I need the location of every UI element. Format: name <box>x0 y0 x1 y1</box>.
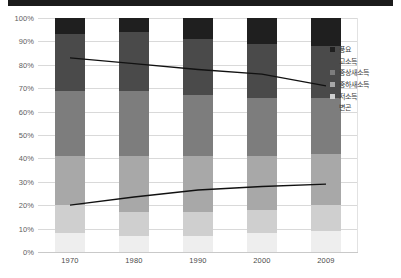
legend-item[interactable]: 중상새소득 <box>330 67 400 79</box>
legend-item[interactable]: 중하새소득 <box>330 79 400 91</box>
chart-figure: 0%10%20%30%40%50%60%70%80%90%100% 풍요고소득중… <box>0 0 401 278</box>
legend-item-label: 고소득 <box>339 58 357 65</box>
bar-segment <box>183 236 213 252</box>
legend-swatch-icon <box>330 82 335 87</box>
x-axis-tick-label: 2009 <box>301 256 351 265</box>
bar-segment <box>183 156 213 212</box>
bar-segment <box>247 44 277 98</box>
legend-item[interactable]: 변곤 <box>330 102 400 114</box>
bar-segment <box>247 233 277 252</box>
bar-segment <box>119 236 149 252</box>
bar-1970 <box>55 18 85 252</box>
chart-legend: 풍요고소득중상새소득중하새소득저소득변곤 <box>330 44 400 114</box>
legend-item-label: 풍요 <box>339 46 351 53</box>
bar-segment <box>119 18 149 32</box>
legend-swatch-icon <box>330 94 335 99</box>
legend-item[interactable]: 고소득 <box>330 56 400 68</box>
bar-segment <box>55 34 85 90</box>
bar-segment <box>183 212 213 235</box>
y-axis-tick-label: 0% <box>23 248 34 257</box>
bar-segment <box>55 18 85 34</box>
x-axis-tick-label: 1990 <box>173 256 223 265</box>
plot-area <box>38 18 358 252</box>
bar-segment <box>119 32 149 91</box>
legend-swatch-icon <box>330 70 335 75</box>
bar-1980 <box>119 18 149 252</box>
bar-segment <box>247 156 277 210</box>
bar-segment <box>183 95 213 156</box>
bar-segment <box>55 205 85 233</box>
bar-segment <box>247 98 277 157</box>
bar-segment <box>55 156 85 205</box>
legend-item[interactable]: 풍요 <box>330 44 400 56</box>
x-axis-tick-label: 2000 <box>237 256 287 265</box>
bar-segment <box>55 91 85 157</box>
legend-item-label: 저소득 <box>339 93 357 100</box>
gridline <box>38 252 358 253</box>
bar-segment <box>119 156 149 212</box>
bar-segment <box>55 233 85 252</box>
y-axis-tick-label: 70% <box>19 84 34 93</box>
bar-segment <box>119 212 149 235</box>
y-axis-tick-label: 20% <box>19 201 34 210</box>
bar-segment <box>247 210 277 233</box>
y-axis-tick-label: 80% <box>19 60 34 69</box>
y-axis-tick-label: 90% <box>19 37 34 46</box>
legend-swatch-icon <box>330 59 335 64</box>
legend-item-label: 중하새소득 <box>339 81 369 88</box>
top-dark-band <box>8 0 393 6</box>
bar-segment <box>311 231 341 252</box>
y-axis-tick-label: 60% <box>19 107 34 116</box>
bar-segment <box>311 205 341 231</box>
y-axis-tick-label: 50% <box>19 131 34 140</box>
legend-item[interactable]: 저소득 <box>330 90 400 102</box>
bar-segment <box>311 18 341 46</box>
y-axis-tick-label: 30% <box>19 177 34 186</box>
bar-segment <box>311 154 341 205</box>
bar-segment <box>247 18 277 44</box>
y-axis-tick-label: 10% <box>19 224 34 233</box>
bar-segment <box>183 18 213 39</box>
legend-item-label: 중상새소득 <box>339 69 369 76</box>
legend-item-label: 변곤 <box>339 104 351 111</box>
bar-2000 <box>247 18 277 252</box>
bar-segment <box>119 91 149 157</box>
bar-1990 <box>183 18 213 252</box>
x-axis-tick-label: 1970 <box>45 256 95 265</box>
legend-swatch-icon <box>330 105 335 110</box>
y-axis-tick-label: 40% <box>19 154 34 163</box>
bar-segment <box>183 39 213 95</box>
y-axis: 0%10%20%30%40%50%60%70%80%90%100% <box>0 18 34 252</box>
y-axis-tick-label: 100% <box>14 14 34 23</box>
legend-swatch-icon <box>330 47 335 52</box>
x-axis-tick-label: 1980 <box>109 256 159 265</box>
